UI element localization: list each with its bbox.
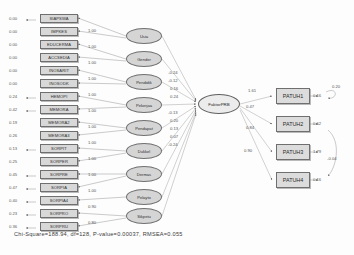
- observed-box: SIAPSWA: [40, 14, 78, 23]
- structural-coefficient: 0.20: [170, 118, 178, 123]
- patuh-box: PATUH4: [276, 172, 310, 188]
- latent-ellipse-label: Pekerjaa: [136, 103, 152, 108]
- observed-box: SORPRE: [40, 170, 78, 179]
- observed-box-label: SORPRE: [50, 172, 68, 177]
- latent-ellipse-label: Sikpetu: [137, 214, 151, 219]
- observed-box-label: SIAPSWA: [49, 16, 68, 21]
- error-value: 0.00: [9, 42, 17, 47]
- error-value: 0.00: [9, 16, 17, 21]
- observed-box-label: MEMORA: [49, 107, 68, 112]
- observed-box-label: EDUCERMA: [47, 42, 71, 47]
- core-factor-ellipse: FaktorPRB: [198, 94, 240, 114]
- error-value: 0.13: [9, 146, 17, 151]
- loading-value: 1.00: [88, 188, 96, 193]
- latent-ellipse-label: Pendidik: [136, 80, 152, 85]
- core-to-patuh-coefficient: 0.84: [246, 125, 254, 130]
- observed-box-label: MEMORA2: [48, 120, 69, 125]
- error-value: 0.00: [9, 81, 17, 86]
- error-value: 0.47: [9, 185, 17, 190]
- observed-box-label: SORPIA: [51, 185, 67, 190]
- core-factor-label: FaktorPRB: [208, 102, 229, 107]
- error-value: 0.00: [9, 55, 17, 60]
- structural-coefficient: -0.24: [168, 70, 178, 75]
- patuh-box-label: PATUH3: [283, 149, 303, 155]
- observed-box-label: SORPIT: [51, 146, 67, 151]
- latent-ellipse: Dermas: [126, 166, 162, 182]
- latent-ellipse-label: Dermas: [137, 172, 151, 177]
- observed-box-label: SORPER: [50, 159, 68, 164]
- observed-box-label: ACCSEDIA: [48, 55, 70, 60]
- patuh-error-value: 0.16: [313, 177, 321, 182]
- fit-statistics: Chi-Square=188.94, df=128, P-value=0.000…: [14, 231, 183, 237]
- core-to-patuh-coefficient: 1.61: [248, 88, 256, 93]
- core-to-patuh-coefficient: 0.47: [246, 104, 254, 109]
- structural-coefficient: -0.12: [168, 78, 178, 83]
- observed-box: MEMORA2: [40, 118, 78, 127]
- observed-box: SORPRO: [40, 209, 78, 218]
- observed-box: SORPIA4: [40, 196, 78, 205]
- error-value: 0.19: [9, 120, 17, 125]
- loading-value: 1.00: [88, 140, 96, 145]
- loading-value: 1.00: [88, 60, 96, 65]
- error-value: 0.40: [9, 198, 17, 203]
- loading-value: 1.00: [88, 76, 96, 81]
- observed-box: ACCSEDIA: [40, 53, 78, 62]
- correlation-value: 0.20: [332, 84, 340, 89]
- observed-box: MEMORA3: [40, 131, 78, 140]
- structural-coefficient: 0.13: [170, 126, 178, 131]
- latent-ellipse-label: Dukkel: [138, 149, 151, 154]
- error-value: 0.00: [9, 29, 17, 34]
- error-value: 0.24: [9, 94, 17, 99]
- correlation-value: -0.04: [327, 156, 337, 161]
- error-value: 0.36: [9, 224, 17, 229]
- error-value: 0.00: [9, 68, 17, 73]
- error-value: 0.26: [9, 133, 17, 138]
- patuh-box-label: PATUH1: [283, 93, 303, 99]
- latent-ellipse: Pendidik: [126, 74, 162, 90]
- loading-value: 1.00: [88, 108, 96, 113]
- patuh-box: PATUH2: [276, 116, 310, 132]
- observed-box-label: IMPKES: [51, 29, 67, 34]
- loading-value: 1.00: [88, 172, 96, 177]
- patuh-error-value: 0.62: [313, 121, 321, 126]
- patuh-error-value: 1.79: [313, 149, 321, 154]
- observed-box-label: SORPIA4: [50, 198, 68, 203]
- patuh-error-value: 0.16: [313, 93, 321, 98]
- patuh-box: PATUH3: [276, 144, 310, 160]
- latent-ellipse-label: Usia: [140, 34, 148, 39]
- observed-box-label: MEMORA3: [48, 133, 69, 138]
- structural-coefficient: 0.24: [170, 94, 178, 99]
- observed-box: SORPIT: [40, 144, 78, 153]
- loading-value: 1.00: [88, 28, 96, 33]
- observed-box: INOSARIT: [40, 66, 78, 75]
- observed-box-label: INOSARIT: [49, 68, 69, 73]
- latent-ellipse: Sikpetu: [126, 208, 162, 224]
- loading-value: 0.90: [88, 204, 96, 209]
- structural-coefficient: 0.07: [170, 134, 178, 139]
- observed-box-label: SORPRO: [50, 211, 68, 216]
- observed-box: EDUCERMA: [40, 40, 78, 49]
- error-value: 0.23: [9, 211, 17, 216]
- observed-box-label: INOSODK: [49, 81, 69, 86]
- patuh-box-label: PATUH2: [283, 121, 303, 127]
- patuh-box-label: PATUH4: [283, 177, 303, 183]
- latent-ellipse: Usia: [126, 28, 162, 44]
- latent-ellipse-label: Pelayto: [137, 195, 151, 200]
- observed-box: SORPER: [40, 157, 78, 166]
- core-to-patuh-coefficient: 0.90: [244, 148, 252, 153]
- observed-box-label: HEMOPI: [51, 94, 68, 99]
- latent-ellipse-label: Gender: [137, 57, 151, 62]
- observed-box: INOSODK: [40, 79, 78, 88]
- latent-ellipse: Pekerjaa: [126, 97, 162, 113]
- latent-ellipse: Gender: [126, 51, 162, 67]
- loading-value: 1.00: [88, 92, 96, 97]
- structural-coefficient: 0.16: [170, 86, 178, 91]
- sem-path-diagram: SIAPSWA IMPKES EDUCERMA ACCSEDIA INOSARI…: [0, 0, 354, 255]
- latent-ellipse: Pelayto: [126, 189, 162, 205]
- latent-ellipse: Pendapat: [126, 120, 162, 136]
- latent-ellipse-label: Pendapat: [135, 126, 153, 131]
- error-value: 0.45: [9, 172, 17, 177]
- loading-value: 1.00: [88, 156, 96, 161]
- loading-value: 1.00: [88, 44, 96, 49]
- structural-coefficient: -0.13: [168, 110, 178, 115]
